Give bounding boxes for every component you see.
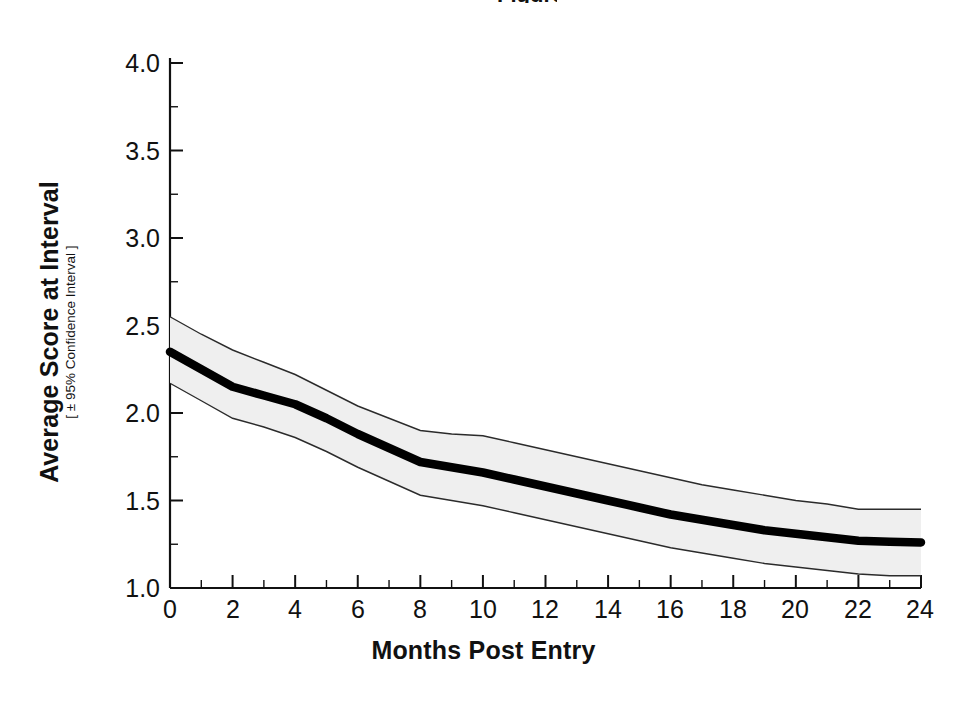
x-axis-major-ticks [170, 575, 921, 588]
figure-canvas: Figure Average Score at Interval [ ± 95%… [0, 0, 967, 713]
plot-svg [0, 0, 967, 713]
